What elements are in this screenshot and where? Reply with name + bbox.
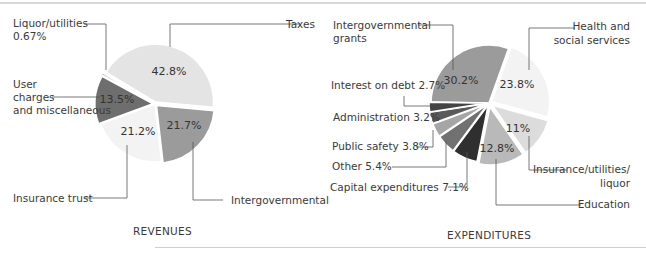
label-user-line1: User bbox=[13, 78, 37, 91]
revenues-title: REVENUES bbox=[133, 225, 192, 237]
label-insurance-trust: Insurance trust bbox=[13, 192, 93, 205]
pct-taxes: 42.8% bbox=[152, 65, 187, 78]
label-capital-expenditures: Capital expenditures 7.1% bbox=[330, 181, 469, 194]
label-taxes: Taxes bbox=[286, 18, 315, 31]
pie-slice bbox=[156, 105, 214, 163]
pct-user-charges: 13.5% bbox=[100, 93, 135, 106]
expenditures-title: EXPENDITURES bbox=[447, 229, 531, 241]
label-liquor-utilities: Liquor/utilities bbox=[13, 17, 88, 30]
label-intergov-grants-line2: grants bbox=[333, 32, 367, 45]
label-user-line3: and miscellaneous bbox=[13, 104, 111, 117]
label-interest-on-debt: Interest on debt 2.7% bbox=[331, 79, 445, 92]
label-health-line1: Health and bbox=[572, 20, 630, 33]
label-public-safety: Public safety 3.8% bbox=[332, 140, 429, 153]
pct-insurance-trust: 21.2% bbox=[121, 125, 156, 138]
label-insurance-line2: liquor bbox=[600, 177, 630, 190]
pct-intergov-grants: 30.2% bbox=[444, 74, 479, 87]
pie-charts bbox=[0, 0, 646, 254]
pct-education: 12.8% bbox=[480, 142, 515, 155]
label-other: Other 5.4% bbox=[332, 160, 392, 173]
pct-intergovernmental: 21.7% bbox=[167, 119, 202, 132]
label-education: Education bbox=[578, 198, 630, 211]
label-intergov-grants-line1: Intergovernmental bbox=[333, 19, 431, 32]
pct-health: 23.8% bbox=[500, 78, 535, 91]
label-intergovernmental: Intergovernmental bbox=[231, 194, 329, 207]
label-administration: Administration 3.2% bbox=[333, 111, 440, 124]
label-user-line2: charges bbox=[13, 91, 55, 104]
pct-insurance: 11% bbox=[506, 122, 530, 135]
bottom-rule bbox=[155, 247, 646, 248]
label-liquor-utilities-pct: 0.67% bbox=[13, 30, 46, 43]
label-health-line2: social services bbox=[554, 34, 630, 47]
label-insurance-line1: Insurance/utilities/ bbox=[533, 163, 630, 176]
